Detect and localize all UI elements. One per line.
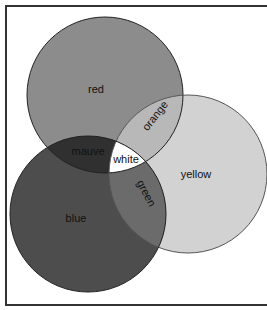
label-yellow: yellow	[181, 168, 212, 180]
label-mauve: mauve	[71, 145, 104, 157]
label-white: white	[112, 153, 139, 165]
venn-diagram: red yellow blue orange mauve green white	[0, 0, 267, 310]
label-blue: blue	[66, 212, 87, 224]
label-red: red	[88, 83, 104, 95]
venn-diagram-canvas: red yellow blue orange mauve green white	[0, 0, 267, 310]
